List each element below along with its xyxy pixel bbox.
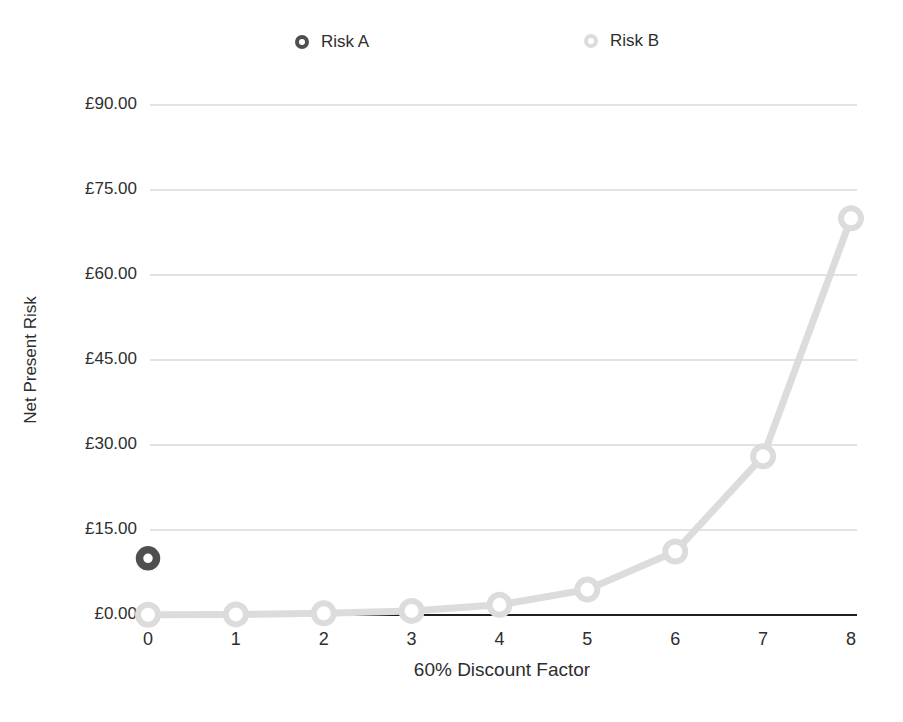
x-tick-label: 6 — [670, 629, 680, 649]
risk-b-point — [314, 603, 334, 623]
y-tick-label: £90.00 — [85, 94, 137, 113]
legend-label-risk-b: Risk B — [610, 30, 659, 52]
x-tick-label: 8 — [846, 629, 856, 649]
x-tick-label: 2 — [319, 629, 329, 649]
risk-b-point — [841, 208, 861, 228]
risk-b-point — [138, 605, 158, 625]
risk-a-point — [140, 550, 157, 567]
risk-b-legend-marker-icon — [584, 34, 598, 48]
x-tick-label: 1 — [231, 629, 241, 649]
risk-b-point — [402, 601, 422, 621]
risk-b-line — [148, 218, 851, 614]
x-tick-label: 3 — [407, 629, 417, 649]
x-axis-title: 60% Discount Factor — [414, 659, 590, 681]
x-tick-label: 7 — [758, 629, 768, 649]
x-tick-label: 0 — [143, 629, 153, 649]
x-tick-label: 4 — [494, 629, 504, 649]
y-tick-label: £60.00 — [85, 264, 137, 283]
risk-b-point — [226, 604, 246, 624]
risk-b-point — [665, 542, 685, 562]
x-tick-label: 5 — [582, 629, 592, 649]
y-tick-label: £75.00 — [85, 179, 137, 198]
risk-a-legend-marker-icon — [295, 35, 309, 49]
y-tick-label: £30.00 — [85, 434, 137, 453]
risk-b-point — [753, 446, 773, 466]
plot-canvas: £0.00£15.00£30.00£45.00£60.00£75.00£90.0… — [0, 0, 903, 722]
chart-figure: £0.00£15.00£30.00£45.00£60.00£75.00£90.0… — [0, 0, 903, 722]
y-tick-label: £15.00 — [85, 519, 137, 538]
legend-label-risk-a: Risk A — [321, 31, 369, 53]
legend-item-risk-b: Risk B — [584, 30, 659, 52]
risk-b-point — [577, 580, 597, 600]
legend-item-risk-a: Risk A — [295, 31, 369, 53]
risk-b-point — [490, 595, 510, 615]
y-tick-label: £45.00 — [85, 349, 137, 368]
y-axis-title: Net Present Risk — [21, 296, 41, 424]
y-tick-label: £0.00 — [94, 604, 137, 623]
